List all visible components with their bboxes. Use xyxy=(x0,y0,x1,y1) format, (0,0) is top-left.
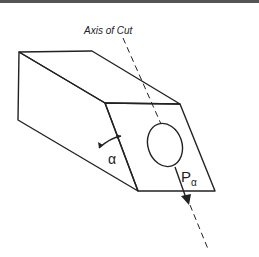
block-top-face xyxy=(19,51,180,104)
force-arrow-head xyxy=(181,194,191,205)
force-label-main: P xyxy=(181,168,191,185)
block-cut-face xyxy=(105,103,215,191)
axis-of-cut-line-lower xyxy=(190,205,208,249)
block-side-face xyxy=(18,52,138,191)
force-label-subscript: α xyxy=(191,177,197,188)
axis-of-cut-label: Axis of Cut xyxy=(83,25,134,36)
angle-alpha-label: α xyxy=(108,151,116,167)
cutting-block-diagram: Axis of Cut α Pα xyxy=(0,0,259,257)
hole-ellipse xyxy=(142,119,188,171)
force-label: Pα xyxy=(181,168,197,188)
